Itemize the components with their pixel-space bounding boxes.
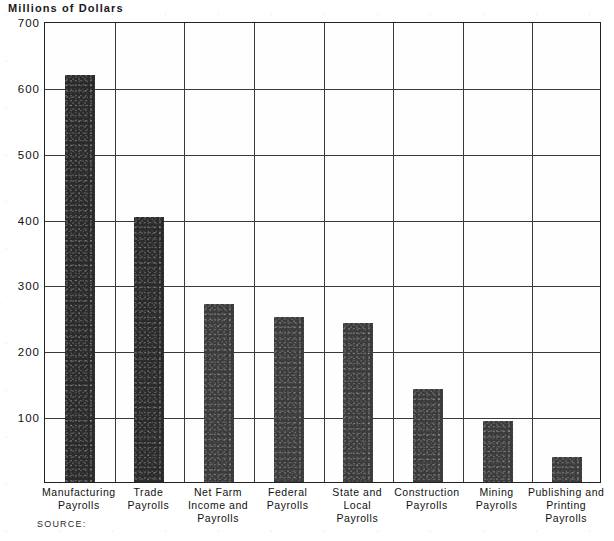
y-gridline (45, 89, 600, 90)
x-tick-label: ManufacturingPayrolls (40, 486, 118, 512)
x-tick-label-line: Federal (249, 486, 327, 499)
y-gridline (45, 221, 600, 222)
bar (65, 75, 95, 482)
y-tick-label: 300 (0, 280, 40, 292)
bar (204, 304, 234, 482)
y-gridline (45, 155, 600, 156)
x-tick-label: State andLocalPayrolls (319, 486, 397, 525)
x-tick-label-line: State and (319, 486, 397, 499)
x-axis: ManufacturingPayrollsTradePayrollsNet Fa… (44, 486, 601, 538)
chart-title: Millions of Dollars (8, 2, 124, 14)
x-tick-label-line: Payrolls (458, 499, 536, 512)
category-divider (532, 23, 533, 482)
x-tick-label: ConstructionPayrolls (388, 486, 466, 512)
x-tick-label: Net FarmIncome andPayrolls (179, 486, 257, 525)
x-tick-label: Publishing andPrintingPayrolls (527, 486, 605, 525)
x-tick-label-line: Payrolls (179, 512, 257, 525)
x-tick-label: FederalPayrolls (249, 486, 327, 512)
category-divider (115, 23, 116, 482)
x-tick-label-line: Local (319, 499, 397, 512)
x-tick-label-line: Net Farm (179, 486, 257, 499)
y-gridline (45, 286, 600, 287)
x-tick-label-line: Payrolls (110, 499, 188, 512)
bar-chart: Millions of Dollars 70060050040030020010… (0, 0, 614, 541)
x-tick-label-line: Payrolls (40, 499, 118, 512)
y-tick-label: 600 (0, 83, 40, 95)
x-tick-label-line: Payrolls (319, 512, 397, 525)
y-tick-label: 100 (0, 412, 40, 424)
y-tick-label: 400 (0, 215, 40, 227)
x-tick-label-line: Payrolls (249, 499, 327, 512)
bar (483, 421, 513, 482)
category-divider (324, 23, 325, 482)
x-tick-label-line: Income and (179, 499, 257, 512)
y-gridline (45, 352, 600, 353)
x-tick-label-line: Trade (110, 486, 188, 499)
y-tick-label: 500 (0, 149, 40, 161)
y-tick-label: 200 (0, 346, 40, 358)
x-tick-label: MiningPayrolls (458, 486, 536, 512)
source-note: SOURCE: (37, 519, 86, 529)
x-tick-label-line: Construction (388, 486, 466, 499)
category-divider (254, 23, 255, 482)
bar (413, 389, 443, 482)
x-tick-label-line: Publishing and (527, 486, 605, 499)
y-tick-label: 700 (0, 17, 40, 29)
plot-area (44, 22, 601, 483)
bar (552, 457, 582, 482)
y-axis: 700600500400300200100 (0, 22, 40, 483)
x-tick-label-line: Mining (458, 486, 536, 499)
y-gridline (45, 418, 600, 419)
category-divider (463, 23, 464, 482)
bar (343, 323, 373, 482)
x-tick-label: TradePayrolls (110, 486, 188, 512)
bar (134, 217, 164, 482)
x-tick-label-line: Payrolls (527, 512, 605, 525)
bar (274, 317, 304, 482)
x-tick-label-line: Payrolls (388, 499, 466, 512)
x-tick-label-line: Manufacturing (40, 486, 118, 499)
category-divider (184, 23, 185, 482)
category-divider (393, 23, 394, 482)
x-tick-label-line: Printing (527, 499, 605, 512)
